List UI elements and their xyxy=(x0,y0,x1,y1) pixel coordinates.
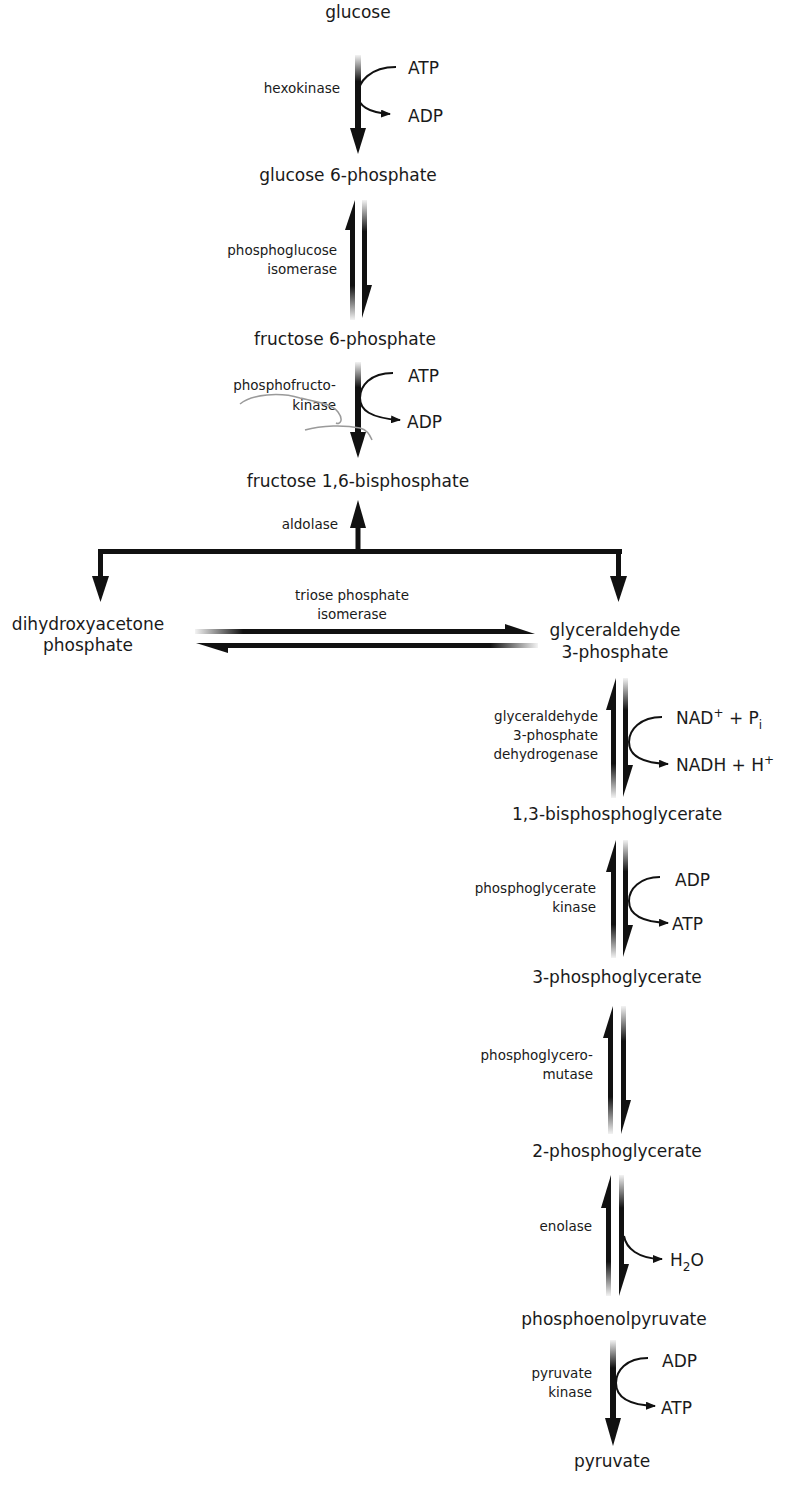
enzyme-pgi-line2: isomerase xyxy=(267,261,337,277)
cofactor-curve-pfk xyxy=(360,373,400,420)
glycolysis-diagram: glucose hexokinase ATP ADP glucose 6-pho… xyxy=(0,0,806,1492)
metabolite-dhap-line1: dihydroxyacetone xyxy=(12,614,164,634)
enzyme-pgm-line2: mutase xyxy=(542,1066,593,1082)
cofactor-atp-out-pgk: ATP xyxy=(672,914,703,934)
enzyme-pk-line2: kinase xyxy=(548,1384,592,1400)
enzyme-enolase: enolase xyxy=(540,1218,592,1234)
enzyme-hexokinase: hexokinase xyxy=(264,80,340,96)
enzyme-tpi-line1: triose phosphate xyxy=(295,587,409,603)
cofactor-curve-hexokinase xyxy=(358,67,396,114)
arrow-hexokinase xyxy=(350,55,366,154)
enzyme-pfk-line1: phosphofructo- xyxy=(233,377,336,393)
enzyme-gapdh-line3: dehydrogenase xyxy=(493,746,598,762)
enzyme-tpi-line2: isomerase xyxy=(317,606,387,622)
cofactor-adp-out: ADP xyxy=(408,106,443,126)
cofactor-curve-pk xyxy=(616,1358,655,1406)
metabolite-phosphoenolpyruvate: phosphoenolpyruvate xyxy=(521,1309,706,1329)
metabolite-dhap-line2: phosphate xyxy=(43,635,133,655)
cofactor-curve-pgk xyxy=(629,877,668,923)
enzyme-pk-line1: pyruvate xyxy=(531,1365,592,1381)
metabolite-glucose: glucose xyxy=(325,2,390,22)
enzyme-gapdh-line1: glyceraldehyde xyxy=(494,708,598,724)
cofactor-atp-in: ATP xyxy=(408,58,439,78)
cofactor-nadh-h-out: NADH + H+ xyxy=(676,753,774,775)
cofactor-adp-in-pk: ADP xyxy=(662,1351,697,1371)
enzyme-gapdh-line2: 3-phosphate xyxy=(513,727,598,743)
metabolite-pyruvate: pyruvate xyxy=(574,1451,650,1471)
arrow-phosphofructokinase xyxy=(350,362,366,458)
metabolite-2-phosphoglycerate: 2-phosphoglycerate xyxy=(532,1141,702,1161)
enzyme-pgk-line2: kinase xyxy=(552,899,596,915)
cofactor-curve-enolase xyxy=(624,1236,662,1259)
cofactor-nad-pi-in: NAD+ + Pi xyxy=(676,706,762,732)
enzyme-pgm-line1: phosphoglycero- xyxy=(481,1047,594,1063)
cofactor-adp-in-pgk: ADP xyxy=(675,870,710,890)
cofactor-curve-gapdh xyxy=(629,717,668,764)
reversible-arrow-pgm xyxy=(603,1006,631,1134)
metabolite-1-3-bisphosphoglycerate: 1,3-bisphosphoglycerate xyxy=(512,804,722,824)
reversible-arrow-enolase xyxy=(601,1175,629,1296)
enzyme-aldolase: aldolase xyxy=(282,516,338,532)
metabolite-gap-line2: 3-phosphate xyxy=(562,642,669,662)
reversible-arrow-tpi xyxy=(195,624,538,653)
reversible-arrow-pgi xyxy=(345,200,372,320)
cofactor-adp-out-pfk: ADP xyxy=(407,412,442,432)
cofactor-water-out: H2O xyxy=(670,1250,704,1274)
enzyme-pgk-line1: phosphoglycerate xyxy=(475,880,596,896)
metabolite-fructose-6-phosphate: fructose 6-phosphate xyxy=(254,329,436,349)
cofactor-atp-out-pk: ATP xyxy=(661,1398,692,1418)
metabolite-glucose-6-phosphate: glucose 6-phosphate xyxy=(259,165,437,185)
metabolite-fructose-1-6-bisphosphate: fructose 1,6-bisphosphate xyxy=(247,471,469,491)
metabolite-3-phosphoglycerate: 3-phosphoglycerate xyxy=(532,967,702,987)
enzyme-pgi-line1: phosphoglucose xyxy=(227,242,337,258)
cofactor-atp-in-pfk: ATP xyxy=(408,366,439,386)
metabolite-gap-line1: glyceraldehyde xyxy=(550,620,681,640)
